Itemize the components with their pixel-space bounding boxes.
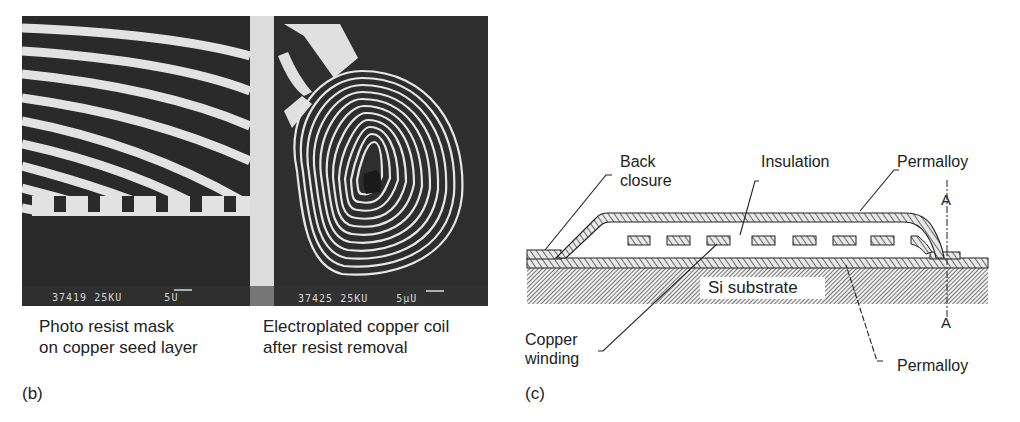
label-permalloy-top: Permalloy bbox=[897, 152, 968, 171]
label-si-substrate: Si substrate bbox=[708, 278, 798, 297]
label-back-closure-line1: Back bbox=[620, 152, 672, 171]
label-copper-winding: Copper winding bbox=[525, 330, 579, 368]
leader-back-closure bbox=[545, 175, 612, 250]
leader-copper-winding bbox=[598, 244, 717, 351]
winding-turn bbox=[911, 236, 932, 254]
panel-b-label: (b) bbox=[22, 383, 43, 404]
winding-turn bbox=[667, 236, 690, 245]
label-copper-winding-line2: winding bbox=[525, 349, 579, 368]
caption-right: Electroplated copper coil after resist r… bbox=[263, 316, 449, 358]
sem-id-right: 37425 bbox=[298, 293, 333, 304]
leader-permalloy-top bbox=[860, 170, 899, 211]
pole-tip-pad bbox=[930, 252, 960, 259]
sem-kv-left: 25KU bbox=[94, 292, 122, 303]
sem-scale-left: 5U bbox=[164, 292, 178, 303]
leader-permalloy-bottom bbox=[846, 265, 883, 361]
image-divider bbox=[250, 16, 274, 306]
label-copper-winding-line1: Copper bbox=[525, 330, 579, 349]
winding-turn bbox=[628, 236, 650, 245]
panel-c-label: (c) bbox=[525, 383, 545, 404]
winding-turn bbox=[871, 236, 894, 245]
sem-info-left: 37419 25KU 5U bbox=[52, 292, 178, 303]
caption-left: Photo resist mask on copper seed layer bbox=[39, 316, 198, 358]
caption-left-line1: Photo resist mask bbox=[39, 316, 198, 337]
label-insulation: Insulation bbox=[761, 152, 830, 171]
leader-insulation bbox=[740, 181, 759, 235]
winding-turn bbox=[707, 236, 730, 245]
sem-kv-right: 25KU bbox=[340, 293, 368, 304]
sem-info-right: 37425 25KU 5µU bbox=[298, 293, 417, 304]
back-closure-pad bbox=[527, 250, 561, 259]
sem-photo-panel: 37419 25KU 5U 37425 25KU 5µU bbox=[22, 16, 488, 306]
winding-turn bbox=[833, 236, 856, 245]
label-section-a-bottom: A bbox=[941, 313, 951, 332]
label-back-closure-line2: closure bbox=[620, 171, 672, 190]
sem-scale-right: 5µU bbox=[396, 293, 417, 304]
winding-turn bbox=[752, 236, 775, 245]
sem-id-left: 37419 bbox=[52, 292, 87, 303]
top-permalloy-layer bbox=[556, 213, 944, 258]
label-back-closure: Back closure bbox=[620, 152, 672, 190]
photoresist-arcs bbox=[22, 16, 250, 306]
label-section-a-top: A bbox=[941, 190, 951, 209]
caption-right-line2: after resist removal bbox=[263, 337, 449, 358]
caption-left-line2: on copper seed layer bbox=[39, 337, 198, 358]
copper-coil bbox=[274, 16, 488, 306]
bottom-permalloy-layer bbox=[527, 258, 988, 268]
caption-right-line1: Electroplated copper coil bbox=[263, 316, 449, 337]
winding-turn bbox=[793, 236, 816, 245]
label-permalloy-bottom: Permalloy bbox=[897, 356, 968, 375]
leader-lines bbox=[545, 170, 899, 361]
copper-windings bbox=[628, 236, 932, 254]
sem-photos-illustration bbox=[22, 16, 488, 306]
coil-center-hole bbox=[363, 170, 381, 194]
